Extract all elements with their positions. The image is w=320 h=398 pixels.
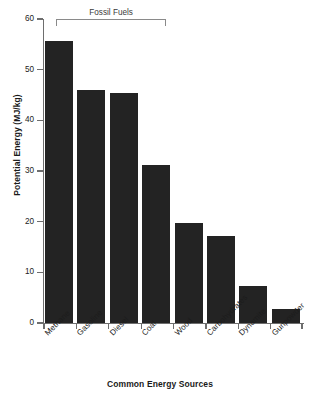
- y-axis-title: Potential Energy (MJ/kg): [12, 65, 22, 225]
- y-axis-tick: [37, 170, 43, 171]
- y-axis-tick: [37, 322, 43, 323]
- y-axis-tick-label: 0: [2, 318, 34, 327]
- y-axis-tick: [37, 120, 43, 121]
- y-axis-tick: [37, 272, 43, 273]
- y-axis-tick-label: 30: [2, 166, 34, 175]
- y-axis-tick: [37, 18, 43, 19]
- y-axis-tick-label: 60: [2, 14, 34, 23]
- y-axis-tick-label: 20: [2, 217, 34, 226]
- x-axis-title: Common Energy Sources: [0, 379, 320, 389]
- bar-chart: Potential Energy (MJ/kg) Common Energy S…: [0, 0, 320, 398]
- x-axis-tick: [301, 323, 302, 329]
- y-axis-tick-label: 40: [2, 115, 34, 124]
- bar: [45, 41, 73, 323]
- bar: [110, 93, 138, 323]
- fossil-fuels-bracket-label: Fossil Fuels: [56, 8, 166, 17]
- y-axis-tick-label: 10: [2, 267, 34, 276]
- fossil-fuels-bracket: [56, 19, 166, 26]
- bar: [77, 90, 105, 323]
- y-axis-tick: [37, 69, 43, 70]
- bar: [175, 223, 203, 323]
- y-axis-tick: [37, 221, 43, 222]
- bar: [142, 165, 170, 323]
- y-axis-tick-label: 50: [2, 65, 34, 74]
